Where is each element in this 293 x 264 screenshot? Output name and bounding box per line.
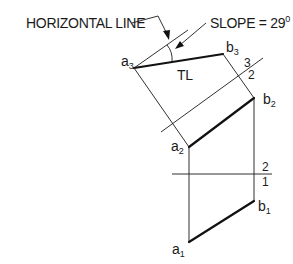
slope-angle-arc	[167, 45, 172, 62]
line-ab-view3-true-length	[134, 54, 223, 68]
point-label-b2: b2	[263, 91, 276, 109]
fold-3-2-lower-label: 2	[248, 68, 255, 82]
slope-leader	[180, 23, 206, 45]
point-label-a1: a1	[172, 241, 185, 259]
line-ab-view2	[189, 98, 254, 147]
horizontal-line-label: HORIZONTAL LINE	[26, 15, 145, 31]
point-label-b3: b3	[226, 39, 239, 57]
fold-2-1-lower-label: 1	[262, 175, 269, 189]
point-label-b1: b1	[258, 198, 271, 216]
auxiliary-view-diagram: HORIZONTAL LINE SLOPE = 290 TL a3 b3 b2 …	[0, 0, 293, 264]
point-label-a2: a2	[171, 138, 184, 156]
horizontal-line-arrowhead	[163, 30, 170, 40]
slope-label: SLOPE = 290	[210, 14, 290, 31]
line-ab-view1	[189, 201, 254, 242]
point-label-a3: a3	[121, 53, 134, 71]
horizontal-reference-line	[134, 30, 188, 68]
true-length-label: TL	[177, 67, 193, 83]
fold-2-1-upper-label: 2	[262, 160, 269, 174]
